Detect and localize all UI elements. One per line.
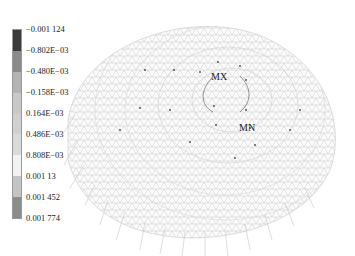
- dome-mesh: [60, 0, 355, 256]
- lattice-dome-model: [0, 0, 355, 256]
- max-marker-label: MX: [211, 72, 227, 82]
- min-marker-label: MN: [239, 123, 255, 133]
